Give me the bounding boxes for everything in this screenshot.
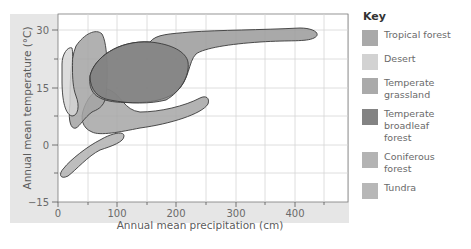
swatch-coniferous-forest — [362, 152, 378, 168]
legend-label: Coniferous forest — [384, 151, 460, 175]
y-tick-15: 15 — [36, 83, 49, 94]
legend-item-tundra: Tundra — [362, 182, 467, 199]
legend-item-tropical-forest: Tropical forest — [362, 29, 467, 46]
legend-item-temperate-broadleaf: Temperate broadleaf forest — [362, 108, 467, 144]
legend-label: Temperate broadleaf forest — [384, 108, 460, 144]
legend-title: Key — [363, 10, 467, 23]
y-tick-30: 30 — [36, 25, 49, 36]
swatch-temperate-broadleaf — [362, 109, 378, 125]
y-axis-title: Annual mean temperature (°C) — [21, 26, 33, 189]
legend-label: Desert — [384, 53, 460, 65]
legend-item-desert: Desert — [362, 53, 467, 70]
x-tick-0: 0 — [55, 208, 61, 219]
swatch-tropical-forest — [362, 30, 378, 46]
y-tick-0: 0 — [43, 140, 49, 151]
legend-item-temperate-grassland: Temperate grassland — [362, 77, 467, 101]
legend-label: Tundra — [384, 182, 460, 194]
swatch-tundra — [362, 183, 378, 199]
legend-label: Temperate grassland — [384, 77, 460, 101]
x-tick-300: 300 — [226, 208, 245, 219]
legend-label: Tropical forest — [384, 29, 460, 41]
x-tick-400: 400 — [285, 208, 304, 219]
swatch-desert — [362, 54, 378, 70]
legend-item-coniferous-forest: Coniferous forest — [362, 151, 467, 175]
x-axis-title: Annual mean precipitation (cm) — [117, 219, 284, 231]
x-tick-100: 100 — [107, 208, 126, 219]
swatch-temperate-grassland — [362, 78, 378, 94]
y-tick-neg15: −15 — [28, 197, 49, 208]
x-tick-200: 200 — [166, 208, 185, 219]
legend: Key Tropical forest Desert Temperate gra… — [362, 10, 467, 206]
